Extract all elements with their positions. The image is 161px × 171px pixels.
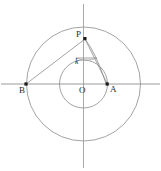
point-marker-p bbox=[83, 37, 86, 40]
arc-k bbox=[77, 58, 97, 60]
geometry-figure: P B O A k bbox=[0, 0, 161, 171]
point-label-p: P bbox=[76, 30, 81, 39]
segment-label-k: k bbox=[75, 58, 79, 66]
point-label-o: O bbox=[79, 86, 86, 95]
point-marker-a bbox=[106, 82, 109, 85]
point-label-b: B bbox=[19, 86, 25, 95]
point-label-a: A bbox=[110, 85, 117, 94]
